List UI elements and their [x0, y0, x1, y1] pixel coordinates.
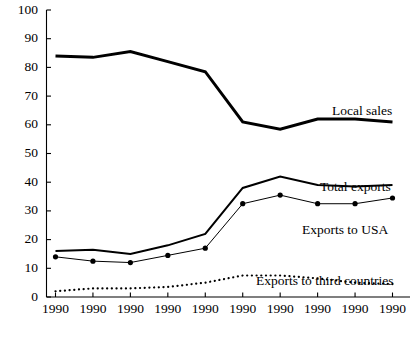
y-axis-tick-labels: 0102030405060708090100: [18, 2, 39, 304]
x-axis-tick-label: 1990: [229, 301, 256, 316]
y-axis-tick-label: 50: [25, 145, 39, 160]
y-axis-tick-label: 10: [25, 260, 39, 275]
x-axis-tick-label: 1990: [192, 301, 219, 316]
data-point-marker-exports-to-usa: [390, 195, 395, 200]
data-point-marker-exports-to-usa: [203, 246, 208, 251]
series-annotation-local-sales: Local sales: [332, 103, 392, 118]
x-axis-tick-labels: 1990199019901990199019901990199019901990: [42, 301, 406, 316]
data-point-marker-exports-to-usa: [240, 201, 245, 206]
y-axis-tick-label: 90: [25, 30, 39, 45]
series-annotation-exports-to-third-countries: Exports to third countries: [256, 273, 394, 288]
y-axis-tick-label: 30: [25, 202, 39, 217]
x-axis-tick-label: 1990: [154, 301, 181, 316]
data-point-marker-exports-to-usa: [352, 201, 357, 206]
x-axis-tick-label: 1990: [79, 301, 106, 316]
data-point-marker-exports-to-usa: [278, 193, 283, 198]
x-axis-tick-label: 1990: [342, 301, 369, 316]
data-point-marker-exports-to-usa: [128, 260, 133, 265]
y-axis-tick-label: 0: [31, 289, 38, 304]
x-axis-tick-label: 1990: [379, 301, 406, 316]
chart-canvas: 0102030405060708090100 19901990199019901…: [0, 0, 419, 347]
x-axis-tick-label: 1990: [267, 301, 294, 316]
y-axis-tick-label: 60: [25, 116, 39, 131]
data-point-marker-exports-to-usa: [165, 253, 170, 258]
y-axis-tick-label: 80: [25, 59, 39, 74]
data-point-marker-exports-to-usa: [90, 259, 95, 264]
series-annotation-total-exports: Total exports: [320, 179, 391, 194]
y-axis-tick-label: 40: [25, 174, 39, 189]
y-axis-tick-label: 100: [18, 2, 39, 17]
x-axis-tick-marks: [56, 293, 393, 298]
y-axis-tick-label: 70: [25, 88, 39, 103]
series-lines-group: [56, 52, 393, 292]
x-axis-tick-label: 1990: [304, 301, 331, 316]
x-axis-tick-label: 1990: [117, 301, 144, 316]
x-axis-tick-label: 1990: [42, 301, 69, 316]
data-point-marker-exports-to-usa: [315, 201, 320, 206]
series-annotation-exports-to-usa: Exports to USA: [302, 222, 389, 237]
line-chart-figure: 0102030405060708090100 19901990199019901…: [0, 0, 419, 347]
y-axis-tick-label: 20: [25, 231, 39, 246]
y-axis-tick-marks: [47, 10, 52, 297]
data-point-marker-exports-to-usa: [53, 254, 58, 259]
